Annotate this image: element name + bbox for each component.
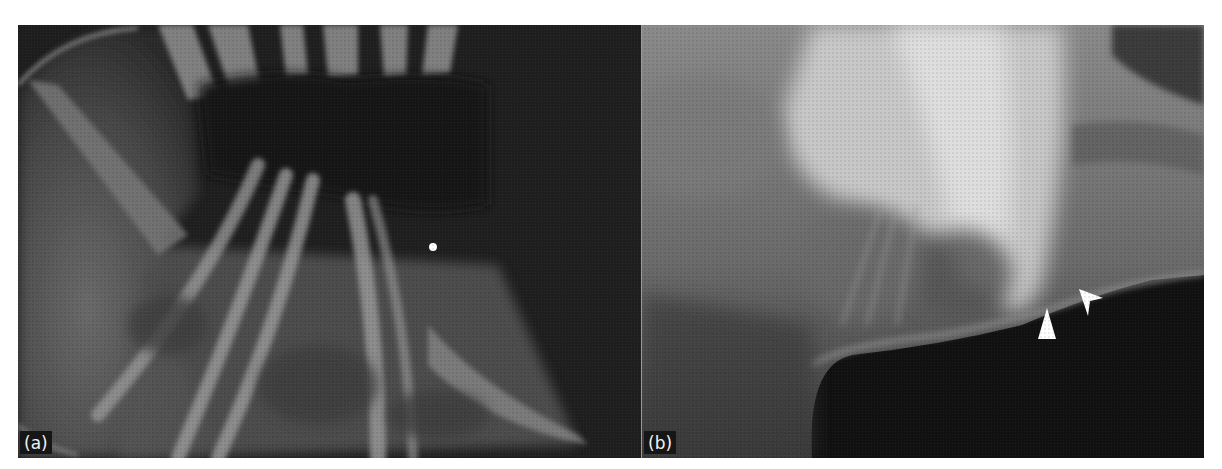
panel-a-label: (a) [20, 431, 52, 454]
panel-b-radiograph [642, 25, 1204, 458]
radiograph-figure: (a) [18, 25, 1203, 458]
panel-b: (b) [641, 25, 1204, 458]
marker-dot [429, 243, 437, 251]
panel-b-label: (b) [644, 431, 676, 454]
panel-a-radiograph [18, 25, 641, 458]
panel-a: (a) [18, 25, 641, 458]
